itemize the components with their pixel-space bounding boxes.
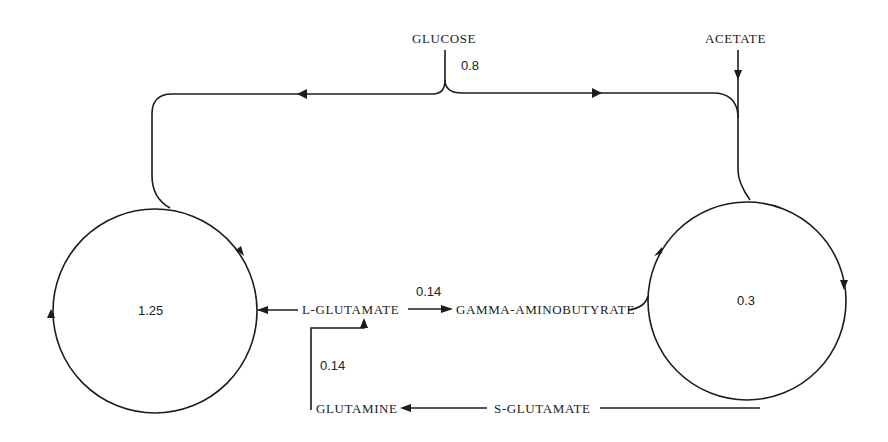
acetate-arrow-down-icon <box>734 70 742 80</box>
right-pool-arrow-down-icon <box>840 280 848 290</box>
metabolic-compartment-diagram: GLUCOSE ACETATE 0.8 1.25 0.3 L-GLUTAMATE… <box>0 0 888 442</box>
right-pool-arrow-up-icon <box>654 247 662 256</box>
glutamine-to-glutamate-rate: 0.14 <box>320 358 345 373</box>
glucose-to-left-line <box>152 94 433 208</box>
l-glutamate-label: L-GLUTAMATE <box>302 302 399 317</box>
gaba-label: GAMMA-AMINOBUTYRATE <box>456 302 635 317</box>
glutamine-to-glutamate-arrow-icon <box>360 318 368 328</box>
s-glutamate-to-glutamine-arrow-icon <box>400 404 411 412</box>
right-pool-value: 0.3 <box>737 293 755 308</box>
acetate-label: ACETATE <box>705 31 766 46</box>
l-glutamate-pool-arrow-icon <box>257 306 268 314</box>
glutamate-to-gaba-arrow-icon <box>441 305 453 313</box>
left-pool-value: 1.25 <box>138 303 163 318</box>
glutamate-to-gaba-rate: 0.14 <box>416 284 441 299</box>
glucose-flux-value: 0.8 <box>461 58 479 73</box>
s-glutamate-label: S-GLUTAMATE <box>494 401 591 416</box>
glucose-stem-line <box>433 50 445 94</box>
glucose-right-arrow-icon <box>592 88 602 98</box>
glucose-label: GLUCOSE <box>412 31 476 46</box>
glucose-left-arrow-icon <box>297 89 307 99</box>
glutamine-label: GLUTAMINE <box>316 401 398 416</box>
glucose-to-right-line <box>445 80 750 200</box>
